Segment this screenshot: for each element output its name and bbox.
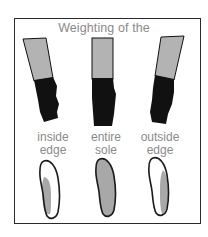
label-entire-sole: entire sole xyxy=(76,131,136,157)
boot xyxy=(150,75,174,124)
leg-shin xyxy=(92,38,113,79)
label-line2: edge xyxy=(23,144,83,157)
leg-outside-edge xyxy=(150,36,184,124)
sole-outline xyxy=(96,159,116,217)
label-outside-edge: outside edge xyxy=(130,131,190,157)
sole-outside-edge xyxy=(149,158,169,216)
leg-entire-sole xyxy=(92,38,116,126)
label-line2: sole xyxy=(76,144,136,157)
leg-shin xyxy=(23,38,53,81)
label-line2: edge xyxy=(130,144,190,157)
boot xyxy=(92,78,116,126)
illustration xyxy=(0,0,208,237)
sole-entire xyxy=(96,159,116,217)
sole-inside-edge xyxy=(40,161,60,219)
leg-inside-edge xyxy=(23,38,59,122)
label-inside-edge: inside edge xyxy=(23,131,83,157)
boot xyxy=(34,77,59,122)
leg-shin xyxy=(155,36,184,80)
